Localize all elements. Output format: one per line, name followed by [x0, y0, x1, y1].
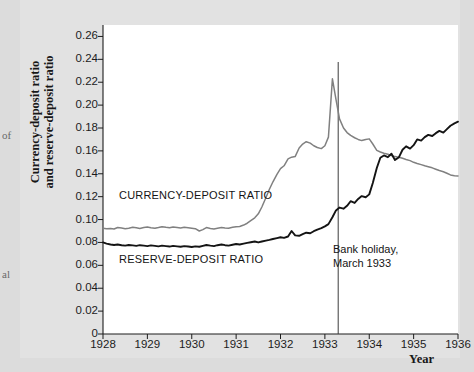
series-label-reserve-deposit-ratio: RESERVE-DEPOSIT RATIO — [119, 253, 263, 265]
series-line-currency-deposit-ratio — [103, 79, 458, 231]
series-label-currency-deposit-ratio: CURRENCY-DEPOSIT RATIO — [119, 189, 272, 201]
bank-holiday-annotation: Bank holiday, March 1933 — [333, 243, 398, 270]
data-series — [103, 79, 458, 247]
axes — [103, 25, 458, 334]
chart-canvas — [0, 0, 474, 372]
y-axis-ticks — [98, 36, 103, 334]
x-axis-ticks — [103, 334, 458, 339]
